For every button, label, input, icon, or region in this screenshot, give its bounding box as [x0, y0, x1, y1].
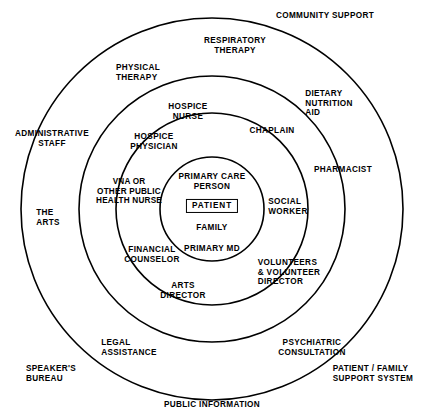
label-psychiatric-consultation: PSYCHIATRIC CONSULTATION — [278, 338, 345, 357]
label-community-support: COMMUNITY SUPPORT — [276, 11, 374, 21]
label-hospice-nurse: HOSPICE NURSE — [168, 102, 207, 121]
label-patient: PATIENT — [186, 199, 238, 213]
label-primary-md: PRIMARY MD — [184, 244, 240, 254]
label-primary-care-person: PRIMARY CARE PERSON — [179, 172, 246, 191]
label-the-arts: THE ARTS — [36, 208, 60, 227]
label-financial-counselor: FINANCIAL COUNSELOR — [124, 245, 179, 264]
label-vna-public-health-nurse: VNA OR OTHER PUBLIC HEALTH NURSE — [96, 177, 162, 206]
label-chaplain: CHAPLAIN — [249, 126, 294, 136]
label-public-information: PUBLIC INFORMATION — [164, 400, 260, 410]
label-pharmacist: PHARMACIST — [314, 165, 372, 175]
label-administrative-staff: ADMINISTRATIVE STAFF — [15, 129, 89, 148]
label-dietary-nutrition-aid: DIETARY NUTRITION AID — [305, 89, 353, 118]
label-family: FAMILY — [196, 223, 227, 233]
label-physical-therapy: PHYSICAL THERAPY — [116, 63, 160, 82]
label-arts-director: ARTS DIRECTOR — [160, 281, 205, 300]
label-social-worker: SOCIAL WORKER — [268, 197, 307, 216]
label-respiratory-therapy: RESPIRATORY THERAPY — [204, 36, 266, 55]
label-volunteers-volunteer-director: VOLUNTEERS & VOLUNTEER DIRECTOR — [258, 258, 321, 287]
label-speakers-bureau: SPEAKER'S BUREAU — [26, 364, 76, 383]
concentric-circles-diagram: PRIMARY CARE PERSON PATIENT FAMILY PRIMA… — [0, 0, 428, 420]
label-legal-assistance: LEGAL ASSISTANCE — [101, 338, 157, 357]
label-patient-family-support-system: PATIENT / FAMILY SUPPORT SYSTEM — [333, 364, 413, 383]
label-hospice-physician: HOSPICE PHYSICIAN — [130, 132, 178, 151]
